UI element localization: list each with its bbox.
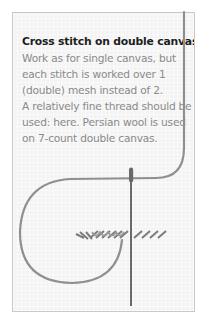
cross-stitch-row-icon xyxy=(76,231,166,239)
needle-icon xyxy=(130,168,133,306)
thread-icon xyxy=(20,12,184,283)
stitch-illustration xyxy=(0,0,209,328)
